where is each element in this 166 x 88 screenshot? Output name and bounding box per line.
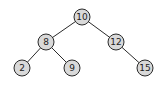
node-label: 10 [76,12,88,22]
node-label: 12 [110,37,121,47]
tree-node-15: 15 [137,60,153,76]
nodes: 10 8 12 2 9 15 [14,9,153,76]
tree-node-9: 9 [64,60,80,76]
tree-node-2: 2 [14,60,30,76]
node-label: 2 [19,63,25,73]
tree-diagram: 10 8 12 2 9 15 [0,0,166,88]
node-label: 15 [139,63,150,73]
tree-node-12: 12 [108,34,124,50]
node-label: 9 [69,63,75,73]
tree-node-10: 10 [74,9,90,25]
tree-node-8: 8 [38,34,54,50]
node-label: 8 [43,37,49,47]
